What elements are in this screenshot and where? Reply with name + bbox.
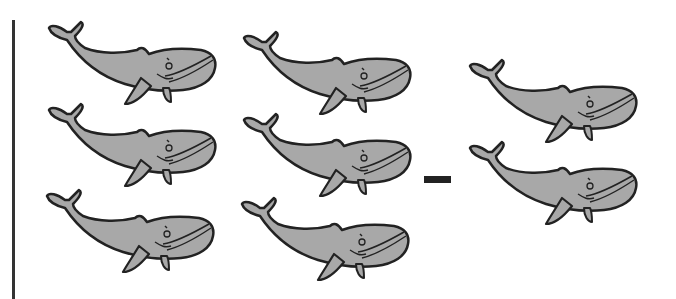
whale-icon [45,100,217,188]
whale-icon [240,28,412,116]
whale-icon [240,110,412,198]
whale-icon [466,56,638,144]
minus-sign [424,176,451,183]
whale-icon [43,186,215,274]
whale-icon [45,18,217,106]
whale-icon [466,138,638,226]
whale-icon [238,194,410,282]
left-margin-line [12,20,15,299]
